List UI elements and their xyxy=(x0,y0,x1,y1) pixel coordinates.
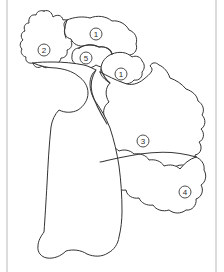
region-label-1-upper[interactable]: 1 xyxy=(90,28,102,40)
region-map-svg: 2 1 5 1 3 4 xyxy=(0,0,224,272)
label-circle-1-right xyxy=(115,68,127,80)
label-circle-3 xyxy=(137,135,149,147)
region-label-5[interactable]: 5 xyxy=(80,52,92,64)
label-circle-1-upper xyxy=(90,28,102,40)
diagram-canvas: 2 1 5 1 3 4 xyxy=(0,0,224,272)
region-label-3[interactable]: 3 xyxy=(137,135,149,147)
label-circle-4 xyxy=(179,186,191,198)
region-shape-2[interactable] xyxy=(20,10,73,67)
region-label-4[interactable]: 4 xyxy=(179,186,191,198)
region-label-2[interactable]: 2 xyxy=(38,44,50,56)
label-circle-2 xyxy=(38,44,50,56)
region-label-1-right[interactable]: 1 xyxy=(115,68,127,80)
label-circle-5 xyxy=(80,52,92,64)
